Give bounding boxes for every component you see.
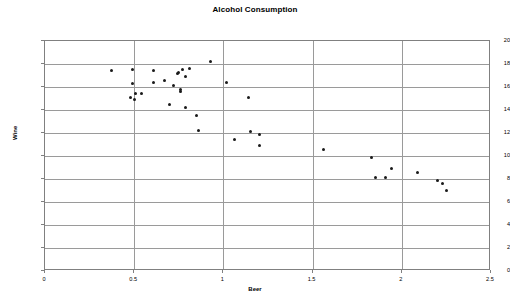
- data-point: [129, 96, 132, 99]
- data-point: [436, 179, 439, 182]
- x-tick-mark: [490, 270, 491, 273]
- data-point: [172, 84, 175, 87]
- y-axis-label: Wine: [12, 126, 18, 140]
- data-point: [184, 106, 187, 109]
- data-point: [445, 189, 448, 192]
- chart-page: Alcohol Consumption Wine Beer 0246810121…: [0, 0, 510, 307]
- data-point: [140, 92, 143, 95]
- x-tick-mark: [222, 270, 223, 273]
- data-point: [384, 176, 387, 179]
- data-point: [163, 79, 166, 82]
- data-point: [249, 130, 252, 133]
- data-point: [177, 71, 180, 74]
- data-point: [390, 167, 393, 170]
- x-axis-label: Beer: [0, 286, 510, 292]
- data-point: [188, 67, 191, 70]
- x-tick-label: 1.5: [292, 276, 332, 282]
- data-point: [322, 148, 325, 151]
- x-tick-mark: [133, 270, 134, 273]
- data-point: [195, 114, 198, 117]
- data-point: [441, 182, 444, 185]
- data-point: [168, 103, 171, 106]
- data-point: [258, 133, 261, 136]
- x-tick-label: 0.5: [113, 276, 153, 282]
- data-point: [181, 68, 184, 71]
- plot-area: [44, 40, 490, 270]
- data-point: [131, 82, 134, 85]
- x-tick-label: 2: [381, 276, 421, 282]
- scatter-points-layer: [45, 41, 489, 269]
- data-point: [110, 69, 113, 72]
- data-point: [416, 171, 419, 174]
- x-tick-mark: [44, 270, 45, 273]
- data-point: [197, 129, 200, 132]
- data-point: [233, 138, 236, 141]
- chart-title: Alcohol Consumption: [0, 5, 510, 14]
- data-point: [184, 75, 187, 78]
- data-point: [134, 92, 137, 95]
- data-point: [225, 81, 228, 84]
- data-point: [152, 81, 155, 84]
- data-point: [209, 60, 212, 63]
- data-point: [179, 90, 182, 93]
- data-point: [152, 69, 155, 72]
- x-tick-label: 2.5: [470, 276, 510, 282]
- data-point: [133, 98, 136, 101]
- x-tick-mark: [312, 270, 313, 273]
- x-tick-mark: [401, 270, 402, 273]
- x-tick-label: 0: [24, 276, 64, 282]
- data-point: [247, 96, 250, 99]
- data-point: [258, 144, 261, 147]
- data-point: [370, 156, 373, 159]
- x-tick-label: 1: [202, 276, 242, 282]
- data-point: [374, 176, 377, 179]
- data-point: [131, 68, 134, 71]
